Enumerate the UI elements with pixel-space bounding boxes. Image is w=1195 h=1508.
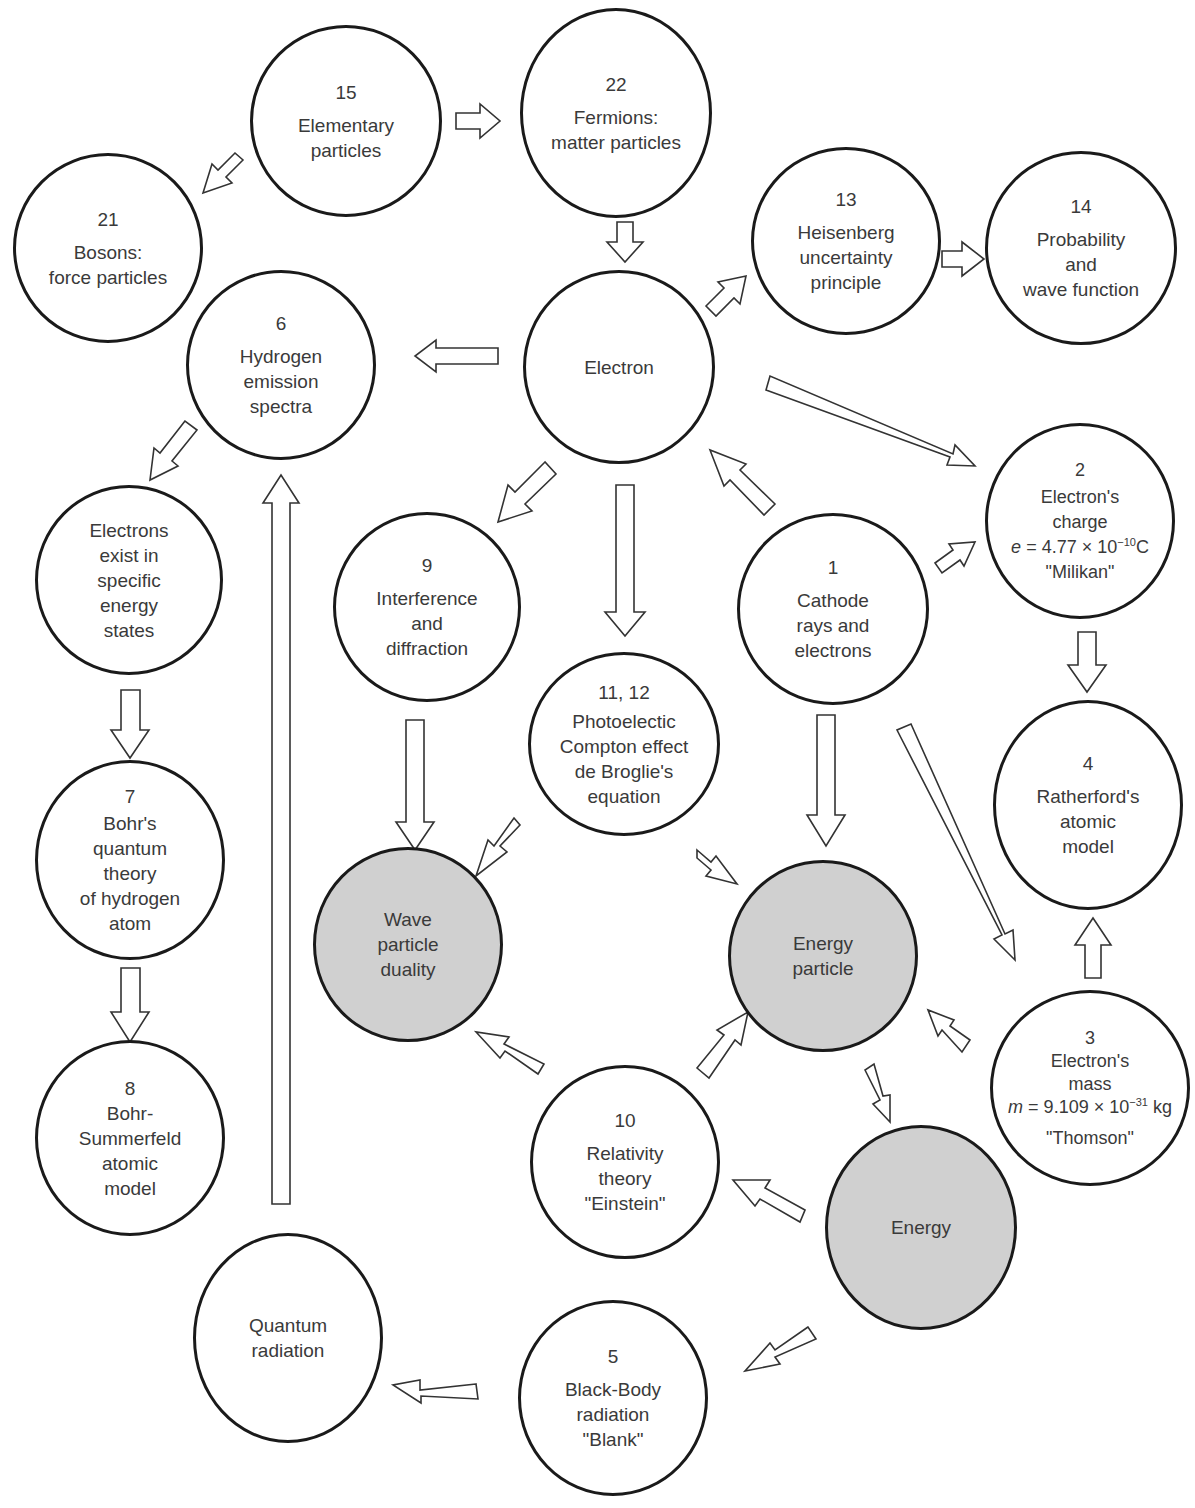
arrow-13-to-14	[942, 242, 984, 276]
node-energy-particle: Energy particle	[728, 860, 918, 1052]
arrow-electron-to-13	[706, 276, 746, 316]
arrow-energy-to-10	[733, 1180, 805, 1222]
arrow-11-12-to-wave-particle	[476, 818, 520, 876]
arrow-electron-to-9	[498, 462, 556, 522]
node-wave-particle-duality: Wave particle duality	[313, 847, 503, 1042]
node-relativity: 10 Relativity theory "Einstein"	[530, 1065, 720, 1259]
node-electron-charge: 2 Electron's charge e = 4.77 × 10−10C "M…	[985, 423, 1175, 619]
arrow-11-12-to-energy-particle	[697, 850, 737, 884]
arrow-electron-to-11-12	[605, 485, 645, 636]
arrow-energy-to-5	[745, 1327, 816, 1371]
node-heisenberg: 13 Heisenberg uncertainty principle	[751, 147, 941, 335]
arrow-3-to-energy-particle	[928, 1010, 970, 1052]
arrow-6-to-energy-states	[150, 421, 197, 480]
arrow-electron-to-6	[415, 340, 498, 372]
node-probability: 14 Probability and wave function	[985, 151, 1177, 345]
node-electron-mass: 3 Electron's mass m = 9.109 × 10−31 kg "…	[990, 990, 1190, 1186]
arrow-9-to-wave-particle	[396, 720, 434, 850]
node-quantum-radiation: Quantum radiation	[193, 1233, 383, 1443]
node-fermions: 22 Fermions: matter particles	[520, 8, 712, 218]
charge-formula: e = 4.77 × 10−10C	[1011, 535, 1149, 560]
node-bosons: 21 Bosons: force particles	[13, 153, 203, 343]
node-hydrogen-spectra: 6 Hydrogen emission spectra	[186, 270, 376, 460]
arrow-energy-particle-to-energy	[865, 1064, 890, 1122]
node-rutherford-model: 4 Ratherford's atomic model	[993, 700, 1183, 910]
node-energy: Energy	[825, 1125, 1017, 1330]
arrow-10-to-wave-particle	[476, 1032, 544, 1074]
mass-formula: m = 9.109 × 10−31 kg	[1008, 1096, 1172, 1119]
node-interference: 9 Interference and diffraction	[333, 512, 521, 702]
node-photoelectric: 11, 12 Photoelectic Compton effect de Br…	[528, 652, 720, 836]
arrow-10-to-energy-particle	[697, 1012, 748, 1078]
node-electron: Electron	[523, 270, 715, 464]
arrow-1-to-3	[897, 724, 1015, 960]
arrow-15-to-21	[203, 153, 243, 193]
node-energy-states: Electrons exist in specific energy state…	[35, 485, 223, 675]
arrow-electron-to-2	[766, 376, 975, 466]
node-black-body: 5 Black-Body radiation "Blank"	[518, 1300, 708, 1496]
arrow-3-to-4	[1075, 918, 1111, 978]
arrow-15-to-22	[456, 104, 500, 138]
arrow-energy-states-to-7	[111, 690, 149, 758]
node-bohr-quantum-theory: 7 Bohr's quantum theory of hydrogen atom	[35, 760, 225, 960]
arrow-1-to-energy-particle	[807, 715, 845, 846]
node-elementary-particles: 15 Elementary particles	[250, 25, 442, 217]
arrow-5-to-quantum-radiation	[393, 1380, 478, 1403]
node-cathode-rays: 1 Cathode rays and electrons	[737, 513, 929, 705]
arrow-1-to-electron	[710, 450, 775, 515]
arrow-7-to-8	[111, 968, 149, 1042]
arrow-22-to-electron	[607, 222, 643, 262]
arrow-1-to-2	[935, 542, 975, 573]
arrow-quantum-radiation-to-6	[263, 475, 299, 1204]
arrow-2-to-4	[1068, 632, 1106, 692]
node-bohr-summerfeld: 8 Bohr- Summerfeld atomic model	[35, 1040, 225, 1236]
